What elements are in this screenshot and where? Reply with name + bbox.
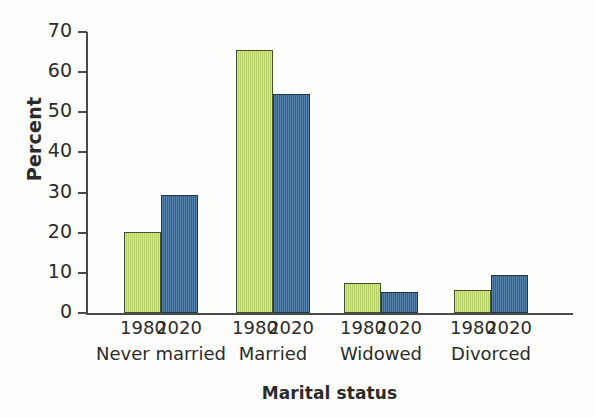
bar-married-2020[interactable] <box>273 94 310 313</box>
y-axis-tick-mark <box>78 192 87 194</box>
group-year-labels: 19802020 <box>454 318 528 344</box>
group-year-labels: 19802020 <box>124 318 198 344</box>
x-axis-category-label: Divorced <box>416 344 566 364</box>
bar-widowed-1980[interactable] <box>344 283 381 313</box>
bar-never-married-1980[interactable] <box>124 232 161 313</box>
y-axis-tick-label: 60 <box>20 61 72 80</box>
group-year-labels: 19802020 <box>344 318 418 344</box>
bar-divorced-2020[interactable] <box>491 275 528 313</box>
y-axis-tick-mark <box>78 151 87 153</box>
bar-group <box>124 32 198 313</box>
plot-area <box>88 32 573 313</box>
bar-group <box>344 32 418 313</box>
bar-group <box>454 32 528 313</box>
y-axis-tick-mark <box>78 111 87 113</box>
group-year-labels: 19802020 <box>236 318 310 344</box>
y-axis-tick-mark <box>78 272 87 274</box>
y-axis-tick-label: 70 <box>20 21 72 40</box>
x-axis-year-label-2020: 2020 <box>156 318 202 338</box>
y-axis-tick-label: 50 <box>20 101 72 120</box>
x-axis-title: Marital status <box>86 383 573 403</box>
x-axis-year-label-2020: 2020 <box>376 318 422 338</box>
x-axis-line <box>86 313 573 315</box>
y-axis-tick-mark <box>78 31 87 33</box>
y-axis-tick-label: 10 <box>20 262 72 281</box>
x-axis-year-label-2020: 2020 <box>268 318 314 338</box>
bar-married-1980[interactable] <box>236 50 273 313</box>
y-axis-tick-mark <box>78 232 87 234</box>
y-axis-tick-label: 40 <box>20 141 72 160</box>
bar-divorced-1980[interactable] <box>454 290 491 313</box>
bar-widowed-2020[interactable] <box>381 292 418 313</box>
y-axis-tick-label: 0 <box>20 302 72 321</box>
bar-never-married-2020[interactable] <box>161 195 198 313</box>
bar-group <box>236 32 310 313</box>
y-axis-tick-mark <box>78 71 87 73</box>
y-axis-tick-label: 30 <box>20 182 72 201</box>
x-axis-year-label-2020: 2020 <box>486 318 532 338</box>
y-axis-tick-label: 20 <box>20 222 72 241</box>
bar-chart-figure: Marital status of the population Percent… <box>0 0 595 417</box>
